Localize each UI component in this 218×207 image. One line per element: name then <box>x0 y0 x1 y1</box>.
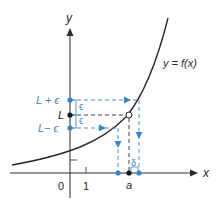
y-axis-arrow-icon <box>67 28 74 36</box>
hole-in-curve <box>126 112 132 118</box>
upper-bound-point <box>67 97 72 102</box>
upper-bound-label: L + ϵ <box>36 94 59 106</box>
curve-label: y = f(x) <box>162 57 197 69</box>
x-axis <box>10 170 198 177</box>
limit-label: L <box>58 109 64 121</box>
upper-arrow-icon <box>124 97 131 104</box>
function-curve <box>12 18 168 165</box>
limit-point <box>67 112 72 117</box>
lower-arrow-icon <box>99 125 106 132</box>
epsilon-lower-label: ϵ <box>79 115 84 126</box>
right-down-arrow-icon <box>136 132 143 139</box>
epsilon-upper-label: ϵ <box>79 101 84 112</box>
y-axis-label: y <box>65 11 73 25</box>
right-delta-point <box>136 170 141 175</box>
delta-band-lines <box>115 100 143 173</box>
tick-one-label: 1 <box>83 180 89 192</box>
delta-label: δ <box>131 158 136 168</box>
epsilon-brackets <box>72 100 76 128</box>
epsilon-delta-limit-diagram: x y 0 1 y = f(x) ϵ ϵ δ L + ϵ L <box>0 0 218 207</box>
a-label: a <box>126 179 132 191</box>
left-down-arrow-icon <box>115 141 122 148</box>
a-point <box>126 170 131 175</box>
left-delta-point <box>115 170 120 175</box>
lower-bound-label: L− ϵ <box>38 122 59 134</box>
x-axis-label: x <box>202 166 210 180</box>
lower-bound-point <box>67 125 72 130</box>
origin-label: 0 <box>58 180 64 192</box>
x-axis-arrow-icon <box>190 170 198 177</box>
